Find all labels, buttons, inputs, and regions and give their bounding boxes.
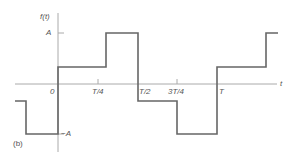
waveform-diagram bbox=[0, 0, 291, 158]
tick-label-t-half: T/2 bbox=[139, 88, 151, 96]
amplitude-label-negative: −A bbox=[61, 130, 71, 138]
tick-label-3t-quarter: 3T/4 bbox=[168, 88, 184, 96]
tick-label-t: T bbox=[219, 88, 224, 96]
amplitude-label-positive: A bbox=[46, 29, 51, 37]
tick-label-t-quarter: T/4 bbox=[92, 88, 104, 96]
panel-label: (b) bbox=[13, 140, 23, 148]
y-axis-label: f(t) bbox=[40, 13, 50, 21]
tick-label-zero: 0 bbox=[50, 88, 54, 96]
x-axis-label: t bbox=[280, 80, 282, 88]
